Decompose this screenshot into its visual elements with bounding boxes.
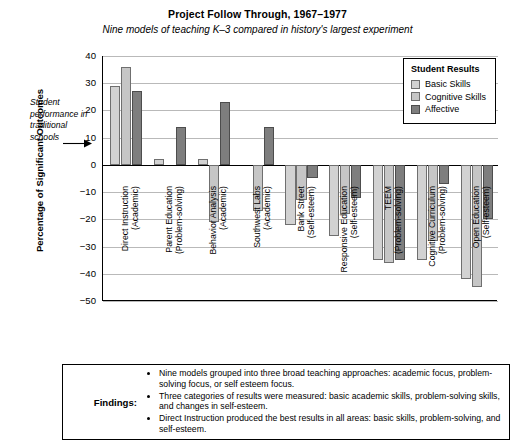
findings-list: Nine models grouped into three broad tea… xyxy=(145,368,509,436)
bar xyxy=(198,159,208,164)
legend-item: Affective xyxy=(411,104,489,114)
x-axis-tick-label: TEEM(Problem-solving) xyxy=(383,186,403,306)
legend-item-label: Basic Skills xyxy=(425,79,471,89)
y-axis-tick-label: 10 xyxy=(66,133,96,143)
bar xyxy=(285,165,295,225)
x-axis-tick-label: Responsive Education(Self-esteem) xyxy=(339,186,359,306)
legend-swatch-icon xyxy=(411,80,420,89)
bar xyxy=(373,165,383,260)
y-axis-tick-label: −30 xyxy=(66,242,96,252)
gridline xyxy=(103,56,498,57)
gridline xyxy=(103,138,498,139)
chart-page: Project Follow Through, 1967–1977 Nine m… xyxy=(0,0,515,448)
findings-box: Findings: Nine models grouped into three… xyxy=(62,364,510,440)
findings-bullet: Direct Instruction produced the best res… xyxy=(159,413,501,434)
x-axis-tick-label: Behavior Analysis(Academic) xyxy=(208,186,228,306)
bar xyxy=(264,127,274,165)
y-axis-tick-label: 0 xyxy=(66,160,96,170)
findings-bullet: Nine models grouped into three broad tea… xyxy=(159,368,501,389)
x-axis-tick-label: Bank Street(Self-esteem) xyxy=(296,186,316,306)
x-axis-tick-label: Direct Instruction(Academic) xyxy=(120,186,140,306)
bar xyxy=(461,165,471,279)
page-title: Project Follow Through, 1967–1977 xyxy=(0,8,515,20)
bar xyxy=(220,102,230,165)
legend-item: Basic Skills xyxy=(411,79,489,89)
findings-label: Findings: xyxy=(63,397,145,408)
x-axis-tick-label: Open Education(Self-esteem) xyxy=(471,186,491,306)
y-axis-tick-label: 20 xyxy=(66,105,96,115)
legend-items: Basic SkillsCognitive SkillsAffective xyxy=(411,79,489,114)
bar xyxy=(154,159,164,164)
legend-swatch-icon xyxy=(411,105,420,114)
legend-item: Cognitive Skills xyxy=(411,92,489,102)
x-axis-tick-label: Southwest Labs(Academic) xyxy=(252,186,272,306)
legend-swatch-icon xyxy=(411,92,420,101)
y-axis-tick-label: 30 xyxy=(66,78,96,88)
y-axis-tick-label: 40 xyxy=(66,51,96,61)
bar xyxy=(329,165,339,236)
bar xyxy=(439,165,449,184)
y-axis-tick-label: −10 xyxy=(66,187,96,197)
findings-bullet: Three categories of results were measure… xyxy=(159,391,501,412)
bar xyxy=(110,86,120,165)
legend-title: Student Results xyxy=(411,64,489,74)
x-axis-tick-label: Parent Education(Problem-solving) xyxy=(164,186,184,306)
y-axis-tick-label: −50 xyxy=(66,296,96,306)
bar xyxy=(176,127,186,165)
bar xyxy=(307,165,317,179)
y-axis-tick-label: −40 xyxy=(66,269,96,279)
legend-item-label: Cognitive Skills xyxy=(425,92,486,102)
y-axis-tick-label: −20 xyxy=(66,214,96,224)
x-axis-tick-label: Cognitive Curriculum(Problem-solving) xyxy=(427,186,447,306)
bar xyxy=(121,67,131,165)
chart-subtitle: Nine models of teaching K–3 compared in … xyxy=(0,24,515,35)
bar xyxy=(132,91,142,165)
y-axis-title: Percentage of Significant Outcomes xyxy=(34,46,45,296)
legend: Student Results Basic SkillsCognitive Sk… xyxy=(403,58,496,124)
legend-item-label: Affective xyxy=(425,104,459,114)
bar xyxy=(417,165,427,260)
